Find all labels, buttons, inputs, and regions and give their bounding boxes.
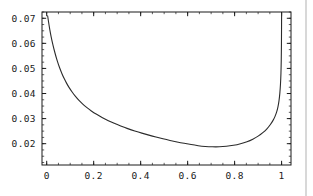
x-axis-tick-labels: 00.20.40.60.81: [44, 170, 285, 181]
chart-figure: 0.020.030.040.050.060.07 00.20.40.60.81: [0, 0, 313, 196]
x-tick-label: 0.8: [225, 170, 243, 181]
page-edge-line: [305, 0, 307, 196]
x-tick-label: 0.4: [131, 170, 149, 181]
x-tick-label: 0.6: [178, 170, 196, 181]
y-tick-label: 0.06: [12, 38, 36, 49]
y-tick-label: 0.04: [12, 88, 36, 99]
plot-background: [42, 12, 291, 165]
line-chart: 0.020.030.040.050.060.07 00.20.40.60.81: [0, 0, 313, 196]
x-tick-label: 0: [44, 170, 50, 181]
y-axis-tick-labels: 0.020.030.040.050.060.07: [12, 13, 36, 149]
x-tick-label: 0.2: [84, 170, 102, 181]
y-tick-label: 0.07: [12, 13, 36, 24]
y-tick-label: 0.03: [12, 113, 36, 124]
y-tick-label: 0.02: [12, 138, 36, 149]
y-tick-label: 0.05: [12, 63, 36, 74]
x-tick-label: 1: [279, 170, 285, 181]
